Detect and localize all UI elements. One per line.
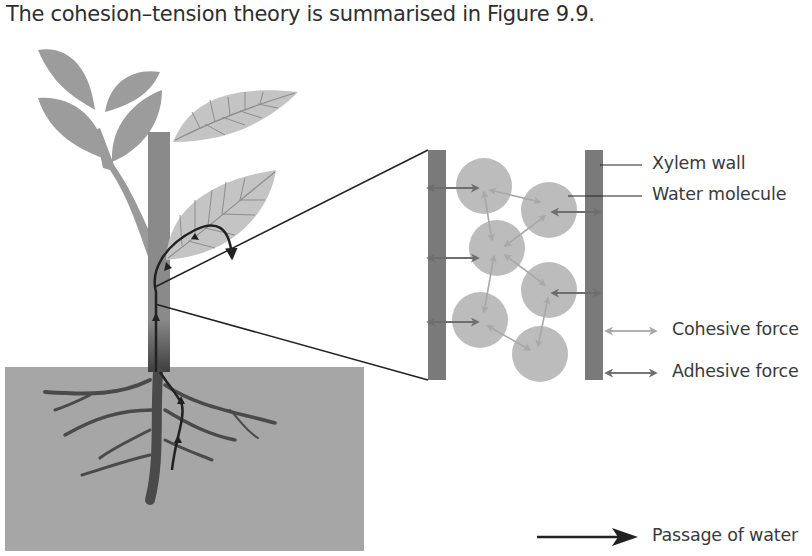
water-molecule: [456, 158, 512, 214]
water-molecules: [452, 158, 577, 382]
water-molecule: [521, 262, 577, 318]
label-water-molecule: Water molecule: [652, 184, 786, 204]
legend-water-label: Passage of water: [652, 525, 798, 545]
leaf-lower-right: [166, 170, 276, 260]
xylem-wall-left: [428, 150, 446, 380]
legend-adhesive-label: Adhesive force: [672, 361, 799, 381]
upper-leaves: [38, 49, 162, 162]
xylem-wall-right: [585, 150, 603, 380]
water-molecule: [452, 292, 508, 348]
legend-cohesive-label: Cohesive force: [672, 319, 799, 339]
cohesion-tension-figure: [0, 0, 812, 556]
leaf-upper-right: [173, 90, 298, 142]
water-molecule: [521, 182, 577, 238]
label-xylem-wall: Xylem wall: [652, 153, 745, 173]
water-molecule: [469, 220, 525, 276]
